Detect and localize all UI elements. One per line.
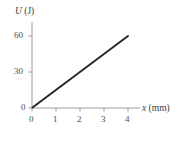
x-axis-unit: (mm) (149, 103, 170, 113)
x-axis-title: x (mm) (142, 104, 170, 114)
y-tick-label: 0 (21, 103, 26, 112)
y-tick-label: 60 (14, 31, 23, 40)
x-tick-label: 1 (53, 115, 58, 124)
chart-plot-area (0, 0, 180, 144)
x-tick-label: 0 (29, 115, 34, 124)
x-tick-label: 2 (77, 115, 82, 124)
x-tick-label: 3 (101, 115, 106, 124)
y-axis-symbol: U (15, 6, 22, 16)
potential-energy-vs-position-chart: U (J) x (mm) 0 30 60 0 1 2 3 4 (0, 0, 180, 144)
y-axis-unit: (J) (24, 6, 34, 16)
y-axis-title: U (J) (15, 7, 34, 17)
y-tick-label: 30 (14, 67, 23, 76)
x-tick-label: 4 (125, 115, 130, 124)
data-series-line (33, 36, 129, 108)
